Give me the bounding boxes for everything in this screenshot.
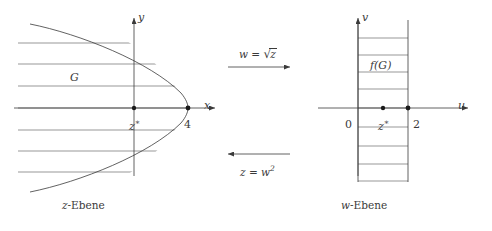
forward-lhs: w bbox=[239, 48, 248, 60]
u-axis-label: u bbox=[458, 100, 465, 111]
forward-mapping-formula: w = √z bbox=[239, 48, 277, 60]
point-z-star-right bbox=[381, 106, 385, 110]
caption-z-rest: -Ebene bbox=[68, 199, 105, 211]
label-two: 2 bbox=[413, 119, 420, 130]
forward-radicand: z bbox=[269, 48, 277, 60]
point-label-z-star-left: z∗ bbox=[129, 119, 140, 132]
backward-exponent: 2 bbox=[270, 164, 275, 173]
point-label-z-star-right: z∗ bbox=[378, 119, 389, 132]
origin-label-zero: 0 bbox=[345, 119, 352, 130]
diagram-canvas bbox=[0, 0, 492, 231]
z-star-asterisk-right: ∗ bbox=[384, 118, 389, 127]
y-axis-label: y bbox=[138, 12, 144, 23]
caption-w-rest: -Ebene bbox=[350, 199, 387, 211]
vertex-label-four: 4 bbox=[184, 119, 191, 130]
region-hatching-left bbox=[10, 43, 200, 172]
caption-w-var: w bbox=[341, 199, 350, 211]
math-diagram: y x G z∗ 4 z-Ebene w = √z z = w2 v u 0 2… bbox=[0, 0, 492, 231]
x-axis-label: x bbox=[204, 100, 210, 111]
region-label-g: G bbox=[70, 72, 79, 83]
point-vertex-four bbox=[186, 106, 191, 111]
backward-base: w bbox=[261, 166, 270, 178]
v-axis-label: v bbox=[362, 12, 368, 23]
point-two bbox=[406, 106, 411, 111]
z-star-asterisk-left: ∗ bbox=[135, 118, 140, 127]
forward-equals: = bbox=[248, 48, 263, 60]
right-panel-w-plane bbox=[318, 18, 468, 182]
mapping-arrows bbox=[228, 67, 290, 154]
caption-w-plane: w-Ebene bbox=[341, 200, 387, 211]
backward-mapping-formula: z = w2 bbox=[240, 165, 275, 177]
region-label-f-of-g: f(G) bbox=[370, 60, 391, 71]
left-panel-z-plane bbox=[10, 18, 215, 192]
caption-z-plane: z-Ebene bbox=[62, 200, 105, 211]
point-z-star-left bbox=[132, 106, 136, 110]
backward-equals: = bbox=[246, 166, 261, 178]
